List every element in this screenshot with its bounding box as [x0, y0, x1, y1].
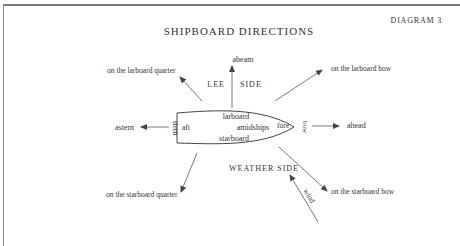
ship-aft-label: aft: [182, 123, 191, 132]
weather-side-label: WEATHER SIDE: [229, 164, 299, 173]
larboard-quarter-label: on the larboard quarter: [107, 66, 176, 75]
ship-larboard-label: larboard: [223, 112, 250, 121]
larboard-bow-label: on the larboard bow: [331, 64, 392, 73]
ship-amidships-label: amidships: [237, 123, 269, 132]
diagram-title: SHIPBOARD DIRECTIONS: [164, 25, 315, 37]
larboard-bow-arrow: [275, 70, 322, 101]
lee-side-label-left: LEE: [207, 80, 225, 89]
astern-label: astern: [115, 123, 134, 132]
ship-fore-label: fore: [277, 121, 290, 130]
ahead-label: ahead: [347, 121, 366, 130]
starboard-quarter-arrow: [181, 153, 197, 192]
starboard-bow-label: on the starboard bow: [331, 187, 395, 196]
lee-side-label-right: SIDE: [240, 80, 262, 89]
ship-stern-label: stern: [171, 121, 180, 136]
larboard-quarter-arrow: [180, 77, 202, 101]
wind-label: wind: [302, 187, 317, 205]
diagram-label: DIAGRAM 3: [391, 16, 442, 25]
ship-starboard-label: starboard: [219, 134, 249, 143]
shipboard-directions-diagram: DIAGRAM 3 SHIPBOARD DIRECTIONS stern aft…: [0, 0, 460, 246]
ship-bow-label: bow: [301, 121, 309, 134]
starboard-quarter-label: on the starboard quarter: [106, 190, 178, 199]
abeam-label: abeam: [233, 55, 255, 64]
